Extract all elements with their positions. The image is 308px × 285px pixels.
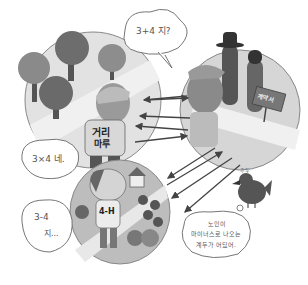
bubble-text-left-middle: 3×4 네. (32, 152, 65, 165)
traders-scene (180, 32, 300, 170)
bubble-text-top: 3+4 지? (136, 24, 171, 37)
farm-scene (70, 160, 170, 264)
bird-character (232, 173, 272, 208)
bubble-text-bird-line3: 계두가 어딨어. (196, 240, 236, 249)
scene-artwork (0, 0, 308, 285)
bubble-text-left-bottom-line2: 지... (44, 227, 59, 238)
farmer-shirt-text: 4-H (99, 207, 115, 216)
thought-bubble-left-bottom (22, 200, 72, 252)
bubble-text-left-bottom-line1: 3-4 (34, 212, 49, 222)
bubble-text-bird-line1: 노인이 (208, 219, 226, 228)
illustration: 3+4 지? 3×4 네. 3-4 지... 노인이 마이너스로 나오는 계두가… (0, 0, 308, 285)
bubble-text-bird-line2: 마이너스로 나오는 (191, 229, 241, 238)
bird-sound-text: 후두 (240, 166, 250, 173)
shirt-text-line2: 마루 (94, 137, 110, 150)
